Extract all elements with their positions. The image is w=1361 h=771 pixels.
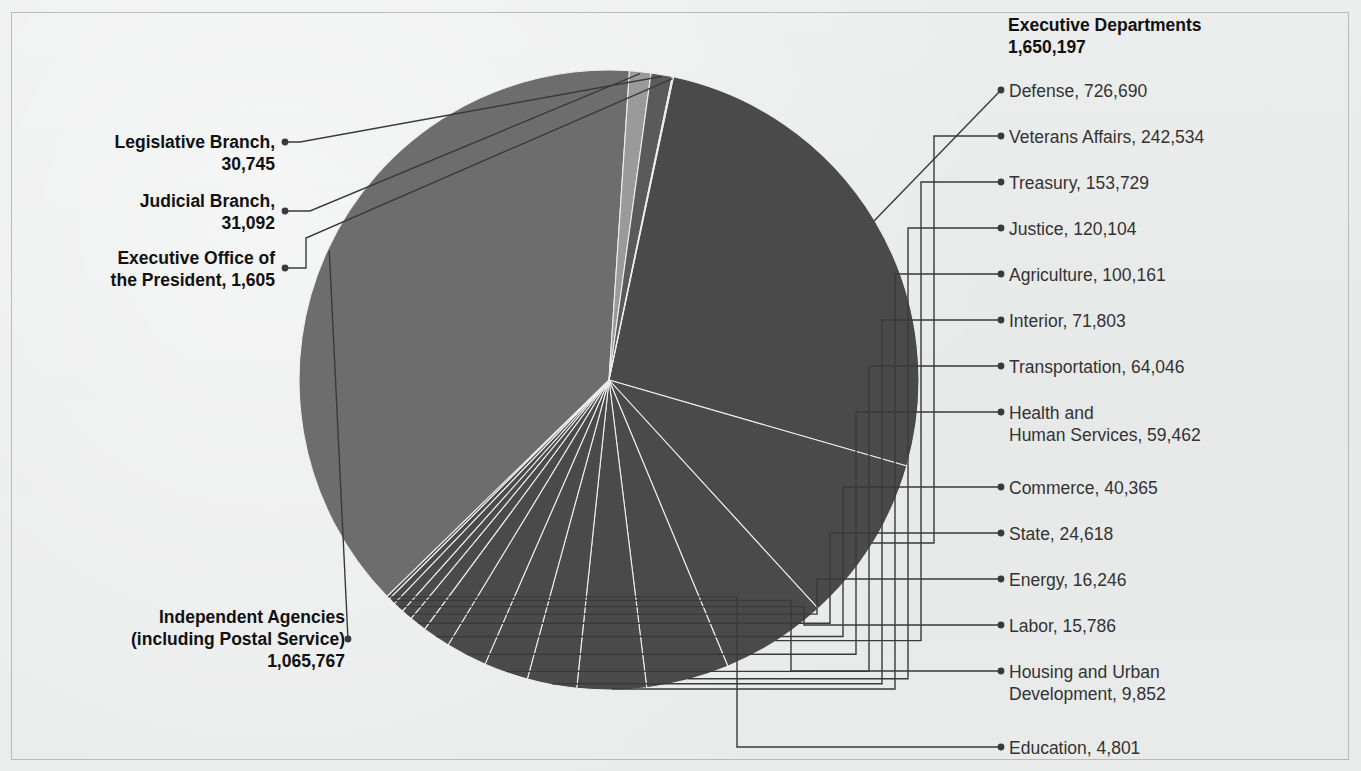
label-veterans-affairs[interactable]: Veterans Affairs, 242,534 bbox=[1009, 126, 1204, 148]
label-defense[interactable]: Defense, 726,690 bbox=[1009, 80, 1147, 102]
exec-departments-header-line1: Executive Departments bbox=[1008, 14, 1202, 36]
leader-dot-judicial-branch bbox=[282, 208, 289, 215]
leader-dot-transportation bbox=[998, 363, 1005, 370]
label-energy[interactable]: Energy, 16,246 bbox=[1009, 569, 1126, 591]
label-housing-urban-dev-line1[interactable]: Housing and Urban bbox=[1009, 661, 1160, 683]
label-commerce[interactable]: Commerce, 40,365 bbox=[1009, 477, 1158, 499]
label-agriculture[interactable]: Agriculture, 100,161 bbox=[1009, 264, 1166, 286]
leader-dot-commerce bbox=[998, 484, 1005, 491]
label-interior[interactable]: Interior, 71,803 bbox=[1009, 310, 1126, 332]
label-labor[interactable]: Labor, 15,786 bbox=[1009, 615, 1116, 637]
leader-dot-independent-agencies bbox=[345, 636, 352, 643]
label-health-human-services-line2[interactable]: Human Services, 59,462 bbox=[1009, 424, 1201, 446]
leader-dot-agriculture bbox=[998, 271, 1005, 278]
label-state[interactable]: State, 24,618 bbox=[1009, 523, 1113, 545]
leader-defense bbox=[874, 90, 1001, 221]
label-education[interactable]: Education, 4,801 bbox=[1009, 737, 1140, 759]
label-independent-agencies-line3[interactable]: 1,065,767 bbox=[110, 650, 345, 672]
leader-dot-health-and-human-services bbox=[998, 409, 1005, 416]
leader-dot-executive-office-president bbox=[282, 265, 289, 272]
leader-dot-justice bbox=[998, 225, 1005, 232]
label-health-human-services-line1[interactable]: Health and bbox=[1009, 402, 1094, 424]
leader-dot-defense bbox=[998, 87, 1005, 94]
leader-dot-veterans-affairs bbox=[998, 133, 1005, 140]
label-judicial-branch-line2[interactable]: 31,092 bbox=[60, 212, 275, 234]
label-legislative-branch-line1[interactable]: Legislative Branch, bbox=[60, 131, 275, 153]
label-independent-agencies-line2[interactable]: (including Postal Service) bbox=[110, 628, 345, 650]
leader-dot-state bbox=[998, 530, 1005, 537]
chart-canvas: Executive Departments 1,650,197 Defense,… bbox=[0, 0, 1361, 771]
exec-departments-header-line2: 1,650,197 bbox=[1008, 36, 1086, 58]
label-independent-agencies-line1[interactable]: Independent Agencies bbox=[110, 606, 345, 628]
label-transportation[interactable]: Transportation, 64,046 bbox=[1009, 356, 1184, 378]
label-legislative-branch-line2[interactable]: 30,745 bbox=[60, 153, 275, 175]
leader-dot-labor bbox=[998, 622, 1005, 629]
leader-dot-treasury bbox=[998, 179, 1005, 186]
label-housing-urban-dev-line2[interactable]: Development, 9,852 bbox=[1009, 683, 1166, 705]
leader-dot-interior bbox=[998, 317, 1005, 324]
label-treasury[interactable]: Treasury, 153,729 bbox=[1009, 172, 1149, 194]
label-executive-office-president-line2[interactable]: the President, 1,605 bbox=[50, 269, 275, 291]
leader-dot-legislative-branch bbox=[282, 139, 289, 146]
leader-dot-education bbox=[998, 744, 1005, 751]
label-judicial-branch-line1[interactable]: Judicial Branch, bbox=[60, 190, 275, 212]
leader-dot-energy bbox=[998, 576, 1005, 583]
label-justice[interactable]: Justice, 120,104 bbox=[1009, 218, 1136, 240]
label-executive-office-president-line1[interactable]: Executive Office of bbox=[50, 247, 275, 269]
leader-dot-housing-and-urban-development bbox=[998, 668, 1005, 675]
